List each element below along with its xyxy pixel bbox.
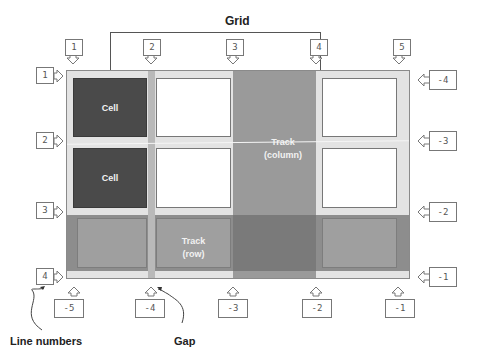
gap-caption: Gap <box>174 335 195 347</box>
column-line-label: -3 <box>218 299 248 318</box>
row-line-label: -1 <box>429 267 457 287</box>
row-line-label: -3 <box>429 131 457 151</box>
row-line-label: 1 <box>36 67 54 84</box>
column-line-label: 5 <box>393 39 411 56</box>
column-line-label: 2 <box>143 39 161 56</box>
column-line-label: -2 <box>302 299 332 318</box>
column-line-label: 1 <box>65 39 83 56</box>
line-numbers-caption: Line numbers <box>10 335 82 347</box>
column-line-label: -5 <box>54 299 84 318</box>
column-line-label: 4 <box>310 39 328 56</box>
column-line-label: 3 <box>226 39 244 56</box>
row-line-label: 2 <box>36 132 54 149</box>
row-line-label: -4 <box>429 70 457 90</box>
column-line-label: -4 <box>135 299 165 318</box>
row-line-label: 3 <box>36 202 54 219</box>
row-line-label: -2 <box>429 202 457 222</box>
column-line-label: -1 <box>385 299 415 318</box>
row-line-label: 4 <box>36 268 54 285</box>
